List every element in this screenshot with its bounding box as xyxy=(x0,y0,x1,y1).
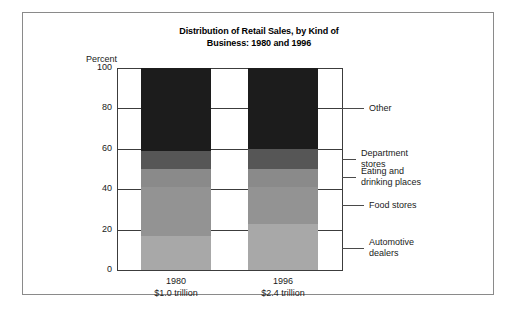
legend-leader-line xyxy=(342,205,364,206)
legend-leader-line xyxy=(342,248,364,249)
bar-segment[interactable] xyxy=(248,68,318,149)
y-tick-label-40: 40 xyxy=(102,183,112,193)
legend-leader-line xyxy=(342,108,364,109)
chart-title-line-1: Distribution of Retail Sales, by Kind of xyxy=(179,26,339,36)
y-tick-label-20: 20 xyxy=(102,224,112,234)
x-label-total-1980: $1.0 trillion xyxy=(121,287,231,299)
y-tick-label-60: 60 xyxy=(102,143,112,153)
x-label-year-1996: 1996 xyxy=(228,275,338,287)
chart-title-line-2: Business: 1980 and 1996 xyxy=(207,38,311,48)
y-tick-label-80: 80 xyxy=(102,102,112,112)
x-axis-label-1996: 1996 $2.4 trillion xyxy=(228,275,338,299)
legend-label: Food stores xyxy=(369,200,417,211)
x-label-total-1996: $2.4 trillion xyxy=(228,287,338,299)
bar-segment[interactable] xyxy=(248,187,318,223)
stacked-bar-1996[interactable] xyxy=(248,68,318,270)
plot-area: 100 80 60 40 20 0 1980 $1.0 trillion xyxy=(117,68,342,271)
legend-rail xyxy=(342,68,343,271)
y-tick-label-0: 0 xyxy=(107,264,112,274)
stacked-bar-1980[interactable] xyxy=(141,68,211,270)
bar-segment[interactable] xyxy=(141,68,211,151)
x-label-year-1980: 1980 xyxy=(121,275,231,287)
bar-segment[interactable] xyxy=(248,224,318,270)
bar-segment[interactable] xyxy=(248,149,318,169)
bar-segment[interactable] xyxy=(141,169,211,187)
bar-segment[interactable] xyxy=(141,236,211,270)
legend-label: Other xyxy=(369,103,392,114)
chart-title: Distribution of Retail Sales, by Kind of… xyxy=(23,26,495,49)
legend-label: Automotive dealers xyxy=(369,237,414,259)
legend-label: Eating and drinking places xyxy=(361,166,421,188)
y-tick-label-100: 100 xyxy=(97,62,112,72)
bar-segment[interactable] xyxy=(141,187,211,235)
chart-figure: Distribution of Retail Sales, by Kind of… xyxy=(22,12,494,295)
legend-leader-line xyxy=(342,159,356,160)
x-axis-label-1980: 1980 $1.0 trillion xyxy=(121,275,231,299)
legend-leader-line xyxy=(342,177,356,178)
bar-segment[interactable] xyxy=(248,169,318,187)
bar-segment[interactable] xyxy=(141,151,211,169)
